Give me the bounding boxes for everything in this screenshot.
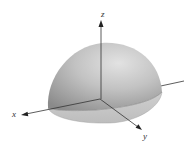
x-axis-arrowhead	[21, 112, 28, 116]
y-axis-arrowhead	[136, 124, 142, 130]
y-axis-label: y	[143, 132, 147, 141]
x-axis-label: x	[12, 110, 16, 119]
z-axis-arrowhead	[99, 20, 104, 27]
hemisphere-svg	[0, 0, 196, 149]
hemisphere-diagram: z x y	[0, 0, 196, 149]
hemisphere-dome	[48, 43, 162, 111]
z-axis-label: z	[101, 10, 105, 19]
